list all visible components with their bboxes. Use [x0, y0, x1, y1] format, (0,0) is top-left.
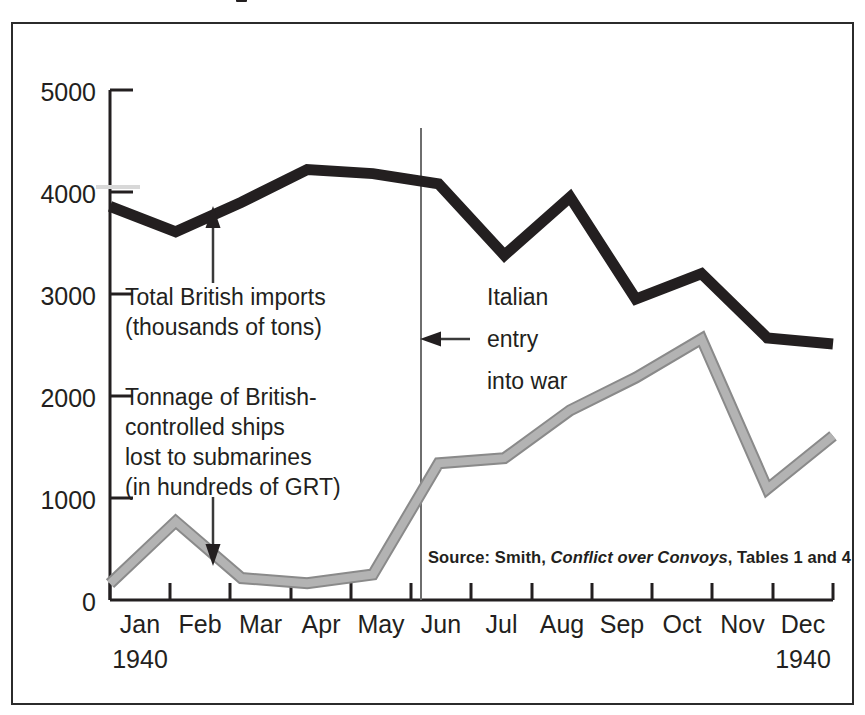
y-tick-label-2000: 2000: [10, 384, 96, 413]
chart-figure: 5000 4000 3000 2000 1000 0 Jan Feb Mar A…: [0, 0, 865, 715]
italian-entry-label-line1: Italian: [487, 283, 548, 313]
y-tick-label-4000: 4000: [10, 180, 96, 209]
source-note-title: Conflict over Convoys: [551, 548, 728, 566]
y-tick-label-1000: 1000: [10, 486, 96, 515]
losses-annotation-line3: lost to submarines: [125, 443, 312, 473]
imports-annotation-line2: (thousands of tons): [125, 313, 322, 343]
italian-entry-label-line3: into war: [487, 367, 568, 397]
imports-annotation-line1: Total British imports: [125, 283, 326, 313]
x-tick-label-jan: Jan: [110, 610, 170, 639]
x-tick-label-sep: Sep: [592, 610, 652, 639]
x-axis-ticks: [110, 583, 833, 600]
x-axis-year-start: 1940: [110, 645, 170, 674]
x-tick-label-oct: Oct: [652, 610, 712, 639]
x-tick-label-dec: Dec: [773, 610, 833, 639]
x-tick-label-mar: Mar: [230, 610, 291, 639]
x-axis-year-end: 1940: [773, 645, 833, 674]
italian-entry-label-line2: entry: [487, 325, 538, 355]
italian-entry-annotation-arrow: [420, 332, 470, 347]
x-tick-label-jul: Jul: [471, 610, 532, 639]
losses-annotation-line2: controlled ships: [125, 413, 285, 443]
source-note-prefix: Source: Smith,: [428, 548, 551, 566]
y-tick-label-0: 0: [10, 588, 96, 617]
source-note-suffix: , Tables 1 and 4: [728, 548, 851, 566]
x-tick-label-aug: Aug: [532, 610, 592, 639]
x-tick-label-feb: Feb: [170, 610, 230, 639]
x-tick-label-may: May: [351, 610, 411, 639]
y-tick-label-3000: 3000: [10, 282, 96, 311]
x-tick-label-jun: Jun: [411, 610, 471, 639]
x-tick-label-apr: Apr: [291, 610, 351, 639]
source-note: Source: Smith, Conflict over Convoys, Ta…: [428, 548, 851, 567]
y-tick-label-5000: 5000: [10, 78, 96, 107]
x-tick-label-nov: Nov: [712, 610, 773, 639]
losses-annotation-line4: (in hundreds of GRT): [125, 473, 341, 503]
chart-plot-area: [0, 0, 865, 715]
losses-annotation-line1: Tonnage of British-: [125, 383, 317, 413]
